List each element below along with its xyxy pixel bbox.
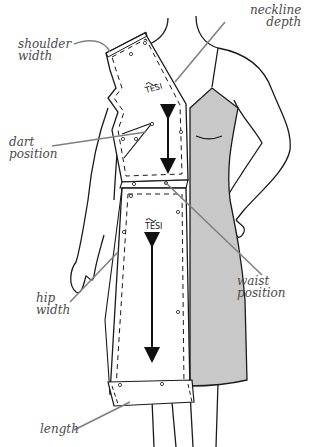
shoulder-width-label: shoulder width <box>18 38 71 62</box>
skirt-grainline-marker: TESI <box>144 222 162 231</box>
length-leader <box>74 402 130 430</box>
dart-position-label: dart position <box>9 136 58 160</box>
bodice-pattern-piece: TESI <box>106 32 188 188</box>
length-label: length <box>40 423 79 435</box>
hip-width-label: hip width <box>36 292 70 316</box>
shoulder-width-leader <box>74 41 110 52</box>
waist-position-label: waist position <box>237 275 286 299</box>
skirt-pattern-piece: TESI <box>105 188 194 406</box>
neckline-depth-label: neckline depth <box>250 4 301 28</box>
sewing-pattern-diagram: TESI TESI <box>0 0 310 447</box>
